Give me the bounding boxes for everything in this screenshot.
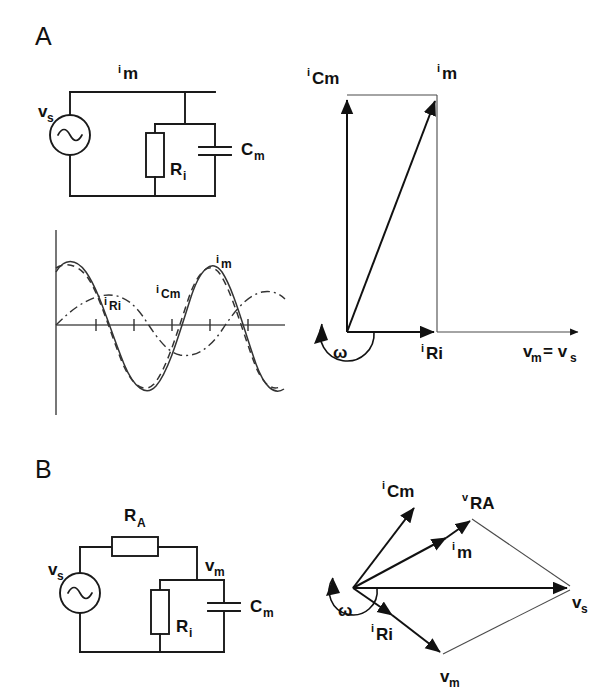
svg-text:i: i — [183, 169, 186, 183]
svg-text:i: i — [307, 66, 310, 78]
omega-label-b: ω — [338, 601, 352, 620]
panel-b-letter: B — [35, 455, 52, 483]
figure-canvas: A — [0, 0, 616, 700]
svg-text:Ri: Ri — [109, 299, 121, 313]
svg-text:R: R — [170, 160, 182, 179]
svg-text:Ri: Ri — [376, 625, 393, 644]
svg-text:i: i — [118, 63, 121, 75]
svg-text:i: i — [437, 62, 440, 74]
svg-text:Cm: Cm — [161, 287, 180, 301]
svg-text:R: R — [176, 617, 188, 636]
resistor-ra-b — [112, 537, 158, 556]
svg-text:m: m — [254, 149, 265, 163]
svg-text:i: i — [216, 253, 219, 265]
svg-text:C: C — [250, 597, 262, 616]
svg-text:m: m — [263, 606, 274, 620]
svg-text:R: R — [124, 506, 136, 525]
svg-text:Cm: Cm — [387, 482, 414, 501]
svg-text:= v: = v — [543, 342, 568, 361]
svg-text:m: m — [531, 351, 542, 365]
panel-a-letter: A — [35, 22, 52, 50]
svg-text:i: i — [371, 622, 374, 634]
label-icm-phasor-a: i Cm — [307, 66, 339, 88]
svg-text:i: i — [421, 342, 424, 354]
svg-text:i: i — [104, 295, 107, 307]
svg-text:RA: RA — [470, 494, 495, 513]
svg-text:m: m — [221, 257, 232, 271]
svg-text:i: i — [452, 540, 455, 552]
label-icm-phasor-b: i Cm — [382, 479, 414, 501]
svg-text:v: v — [462, 491, 469, 503]
svg-text:i: i — [382, 479, 385, 491]
svg-text:Ri: Ri — [426, 344, 443, 363]
svg-text:s: s — [57, 569, 64, 583]
svg-text:m: m — [123, 64, 138, 83]
svg-text:s: s — [570, 351, 577, 365]
svg-text:m: m — [449, 676, 460, 690]
svg-text:Cm: Cm — [312, 69, 339, 88]
svg-text:i: i — [189, 626, 192, 640]
omega-label-a: ω — [333, 343, 347, 362]
svg-text:A: A — [137, 516, 146, 530]
svg-text:i: i — [156, 283, 159, 295]
resistor-ri-a — [146, 133, 164, 177]
svg-text:m: m — [442, 64, 457, 83]
svg-text:m: m — [457, 543, 472, 562]
svg-text:C: C — [241, 140, 253, 159]
svg-text:s: s — [47, 111, 54, 125]
resistor-ri-b — [151, 590, 169, 634]
svg-text:s: s — [581, 602, 588, 616]
svg-text:m: m — [214, 565, 225, 579]
